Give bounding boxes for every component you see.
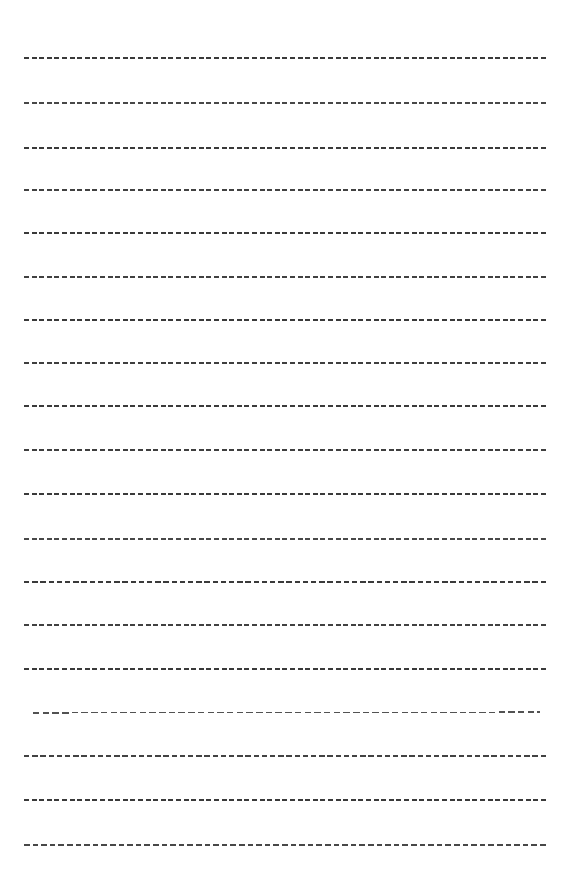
paper-sheet — [0, 0, 569, 886]
rule-line — [33, 712, 540, 713]
rule-lines-svg — [0, 0, 569, 886]
rule-lines-layer — [0, 0, 569, 886]
